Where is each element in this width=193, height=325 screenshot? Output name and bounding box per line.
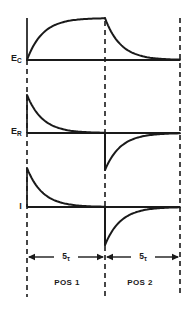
interval-1-duration-label: 5τ	[62, 252, 70, 263]
pos1-region-label: POS 1	[54, 279, 80, 287]
ec-axis-label: EC	[5, 54, 22, 65]
rc-waveform-figure: EC ER I 5τ 5τ POS 1 POS 2	[0, 0, 193, 325]
er-axis-label: ER	[5, 127, 22, 138]
waveform-plot	[0, 0, 193, 325]
pos2-region-label: POS 2	[127, 279, 153, 287]
interval-2-duration-label: 5τ	[139, 252, 147, 263]
current-axis-label: I	[5, 202, 22, 213]
